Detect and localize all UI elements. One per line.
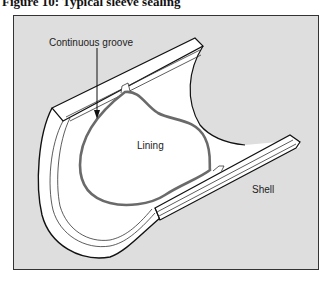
label-continuous-groove: Continuous groove <box>49 37 133 48</box>
label-shell: Shell <box>252 184 274 195</box>
label-lining: Lining <box>137 140 164 151</box>
